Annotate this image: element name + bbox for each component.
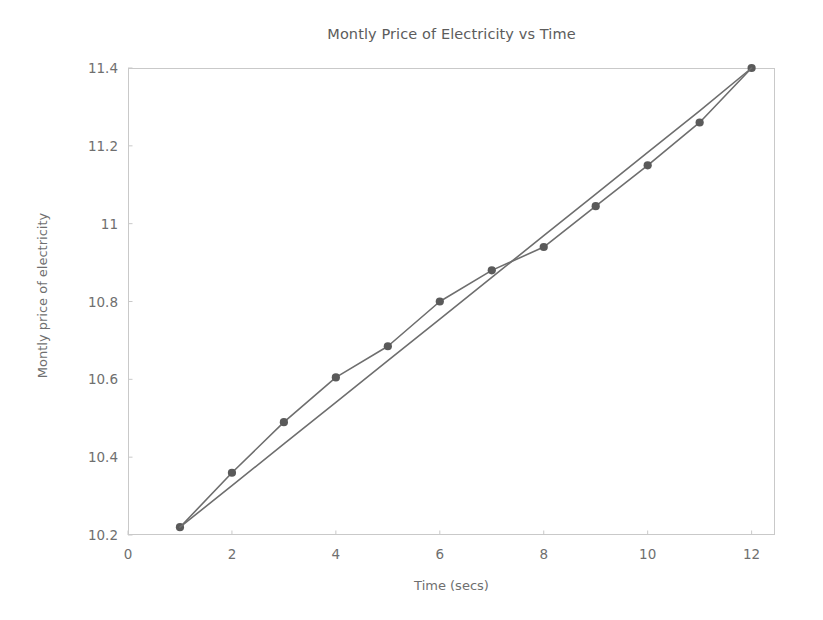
data-point-5 [436, 297, 444, 305]
x-tick-label-0: 0 [124, 546, 133, 562]
data-point-4 [384, 342, 392, 350]
x-tick-label-5: 10 [639, 546, 656, 562]
plot-area [128, 68, 775, 535]
x-axis-label: Time (secs) [128, 578, 775, 593]
chart-figure: Montly Price of Electricity vs Time 10.2… [0, 0, 823, 620]
x-tick-label-6: 12 [743, 546, 760, 562]
series-line-1 [180, 68, 752, 527]
data-point-8 [592, 202, 600, 210]
x-tick-label-4: 8 [539, 546, 548, 562]
data-point-1 [228, 469, 236, 477]
y-tick-label-0: 10.2 [88, 527, 118, 543]
y-tick-label-2: 10.6 [88, 371, 118, 387]
data-point-2 [280, 418, 288, 426]
y-axis-tick-labels: 10.210.410.610.81111.211.4 [62, 68, 118, 535]
chart-title: Montly Price of Electricity vs Time [128, 26, 775, 42]
x-tick-label-2: 4 [332, 546, 341, 562]
x-tick-label-3: 6 [436, 546, 445, 562]
data-point-7 [540, 243, 548, 251]
y-tick-label-6: 11.4 [88, 60, 118, 76]
data-point-3 [332, 373, 340, 381]
data-point-9 [644, 161, 652, 169]
axis-frame [129, 69, 775, 535]
y-tick-label-5: 11.2 [88, 138, 118, 154]
y-tick-label-3: 10.8 [88, 294, 118, 310]
y-tick-label-4: 11 [101, 216, 118, 232]
series-layer [176, 64, 756, 531]
y-axis-label: Montly price of electricity [35, 176, 50, 416]
x-axis-tick-labels: 024681012 [128, 546, 775, 568]
data-point-6 [488, 266, 496, 274]
y-tick-label-1: 10.4 [88, 449, 118, 465]
plot-svg [128, 68, 775, 535]
x-tick-label-1: 2 [228, 546, 237, 562]
data-point-10 [696, 118, 704, 126]
